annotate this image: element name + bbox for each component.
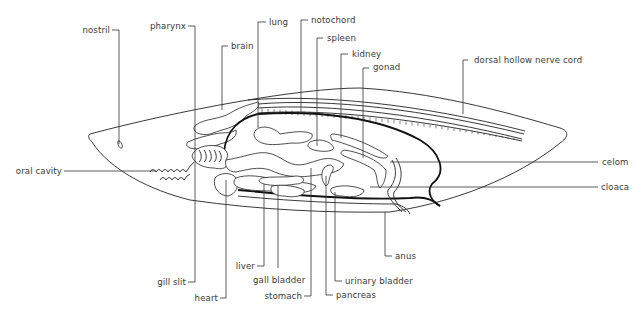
- lung-shape: [254, 127, 312, 145]
- label-dorsal-hollow-nerve-cord: dorsal hollow nerve cord: [474, 55, 582, 65]
- label-liver: liver: [220, 261, 255, 271]
- liver-shape: [259, 176, 303, 186]
- oral-cavity-lower: [160, 174, 190, 180]
- spleen-shape: [308, 140, 334, 151]
- label-urinary-bladder: urinary bladder: [345, 276, 413, 286]
- label-oral-cavity: oral cavity: [6, 166, 62, 176]
- label-kidney: kidney: [352, 49, 381, 59]
- label-celom: celom: [602, 157, 629, 167]
- vertebrate-anatomy-diagram: nostril pharynx brain lung notochord spl…: [0, 0, 639, 316]
- label-anus: anus: [395, 251, 416, 261]
- label-gill-slit: gill slit: [140, 277, 186, 287]
- label-cloaca: cloaca: [601, 182, 629, 192]
- label-lung: lung: [269, 17, 288, 27]
- pharynx-shape: [192, 145, 228, 168]
- urinary-bladder-shape: [331, 186, 364, 197]
- label-stomach: stomach: [248, 291, 302, 301]
- anatomy-drawing: [0, 0, 639, 316]
- label-gonad: gonad: [373, 62, 400, 72]
- label-nostril: nostril: [68, 25, 110, 35]
- nostril-shape: [118, 141, 122, 148]
- label-gall-bladder: gall bladder: [253, 275, 305, 285]
- oral-cavity-upper: [150, 162, 194, 172]
- label-spleen: spleen: [327, 33, 356, 43]
- brain-shape: [194, 102, 259, 135]
- pancreas-shape: [322, 165, 333, 186]
- label-pancreas: pancreas: [336, 290, 376, 300]
- label-brain: brain: [231, 41, 254, 51]
- label-notochord: notochord: [311, 15, 356, 25]
- label-pharynx: pharynx: [140, 21, 186, 31]
- label-heart: heart: [178, 293, 218, 303]
